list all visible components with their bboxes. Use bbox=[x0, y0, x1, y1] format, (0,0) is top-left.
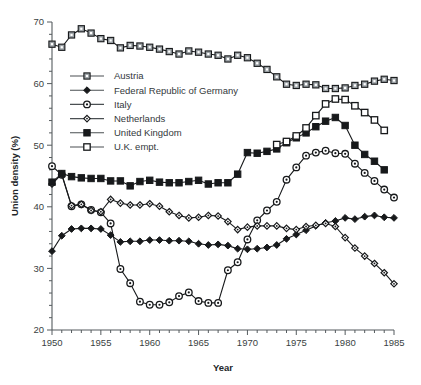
marker-center bbox=[393, 283, 395, 285]
marker-shape bbox=[107, 178, 113, 184]
data-point bbox=[117, 45, 123, 51]
marker-center bbox=[207, 302, 209, 304]
y-tick-label: 40 bbox=[33, 201, 44, 212]
data-point bbox=[68, 226, 75, 233]
marker-shape bbox=[332, 96, 338, 102]
marker-center bbox=[71, 205, 73, 207]
data-point bbox=[146, 237, 153, 244]
marker-shape bbox=[244, 149, 250, 155]
data-point bbox=[303, 81, 309, 87]
marker-center bbox=[295, 229, 297, 231]
data-point bbox=[137, 43, 143, 49]
marker-center bbox=[86, 118, 88, 120]
data-point bbox=[127, 238, 134, 245]
marker-center bbox=[149, 203, 151, 205]
marker-shape bbox=[88, 175, 94, 181]
marker-shape bbox=[215, 241, 222, 248]
data-point bbox=[186, 48, 192, 54]
x-tick-label: 1970 bbox=[237, 337, 258, 348]
data-point bbox=[78, 26, 84, 32]
marker-center bbox=[295, 84, 297, 86]
legend-item[interactable]: Netherlands bbox=[70, 113, 165, 124]
data-point bbox=[264, 223, 270, 229]
marker-shape bbox=[176, 180, 182, 186]
marker-shape bbox=[342, 214, 349, 221]
data-point bbox=[391, 77, 397, 83]
data-point bbox=[322, 147, 329, 154]
marker-center bbox=[188, 291, 190, 293]
data-point bbox=[176, 293, 183, 300]
marker-shape bbox=[283, 235, 290, 242]
marker-shape bbox=[137, 238, 144, 245]
legend-item[interactable]: U.K. empt. bbox=[70, 141, 159, 152]
marker-center bbox=[51, 165, 53, 167]
data-point bbox=[362, 81, 368, 87]
data-point bbox=[147, 44, 153, 50]
data-point bbox=[293, 164, 300, 171]
data-point bbox=[361, 170, 368, 177]
data-point bbox=[381, 127, 387, 133]
legend-marker bbox=[84, 101, 91, 108]
data-point bbox=[332, 96, 338, 102]
legend-item[interactable]: United Kingdom bbox=[70, 127, 182, 138]
y-axis-title: Union density (%) bbox=[9, 136, 20, 216]
data-point bbox=[176, 180, 182, 186]
marker-shape bbox=[156, 237, 163, 244]
data-point bbox=[49, 41, 55, 47]
data-point bbox=[283, 138, 289, 144]
legend-item[interactable]: Italy bbox=[70, 99, 132, 110]
data-point bbox=[205, 300, 212, 307]
marker-shape bbox=[322, 118, 328, 124]
data-point bbox=[283, 235, 290, 242]
marker-center bbox=[110, 199, 112, 201]
marker-center bbox=[286, 227, 288, 229]
marker-shape bbox=[303, 125, 309, 131]
marker-shape bbox=[68, 226, 75, 233]
marker-center bbox=[276, 76, 278, 78]
data-point bbox=[254, 245, 261, 252]
data-point bbox=[283, 225, 289, 231]
data-point bbox=[352, 160, 359, 167]
marker-shape bbox=[117, 178, 123, 184]
chart-canvas: 2030405060701950195519601965197019751980… bbox=[0, 0, 421, 385]
data-point bbox=[146, 301, 153, 308]
marker-center bbox=[129, 44, 131, 46]
data-point bbox=[117, 266, 124, 273]
data-point bbox=[68, 32, 74, 38]
marker-center bbox=[256, 62, 258, 64]
marker-center bbox=[168, 301, 170, 303]
marker-center bbox=[197, 51, 199, 53]
marker-center bbox=[178, 295, 180, 297]
data-point bbox=[215, 241, 222, 248]
marker-center bbox=[305, 226, 307, 228]
marker-shape bbox=[361, 213, 368, 220]
marker-shape bbox=[185, 238, 192, 245]
marker-shape bbox=[274, 141, 280, 147]
marker-shape bbox=[352, 216, 359, 223]
data-point bbox=[361, 151, 367, 157]
data-point bbox=[185, 238, 192, 245]
data-point bbox=[205, 242, 212, 249]
data-point bbox=[166, 299, 173, 306]
marker-shape bbox=[84, 130, 90, 136]
marker-center bbox=[198, 216, 200, 218]
marker-shape bbox=[59, 170, 65, 176]
data-point bbox=[205, 51, 211, 57]
marker-center bbox=[159, 205, 161, 207]
marker-center bbox=[178, 215, 180, 217]
data-point bbox=[215, 180, 221, 186]
data-point bbox=[322, 118, 328, 124]
marker-center bbox=[168, 211, 170, 213]
data-point bbox=[186, 289, 193, 296]
y-tick-label: 50 bbox=[33, 140, 44, 151]
legend-item[interactable]: Austria bbox=[70, 70, 144, 81]
data-point bbox=[127, 202, 133, 208]
marker-center bbox=[364, 255, 366, 257]
marker-shape bbox=[283, 138, 289, 144]
x-axis-title: Year bbox=[213, 362, 233, 373]
legend-item[interactable]: Federal Republic of Germany bbox=[70, 85, 238, 96]
data-point bbox=[283, 176, 290, 183]
marker-shape bbox=[381, 167, 387, 173]
y-tick-label: 30 bbox=[33, 263, 44, 274]
data-point bbox=[98, 175, 104, 181]
